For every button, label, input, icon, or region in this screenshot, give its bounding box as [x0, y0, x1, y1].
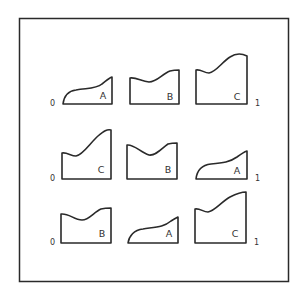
row1-right-label: 1: [255, 99, 260, 108]
row3-left-label: 0: [50, 238, 55, 247]
row1-left-label: 0: [50, 99, 55, 108]
label-row3-shape3: C: [232, 228, 239, 239]
row-3: [61, 192, 246, 243]
label-row3-shape1: B: [99, 228, 106, 239]
label-row2-shape1: C: [98, 164, 105, 175]
row-1: [63, 54, 247, 104]
outer-frame: [20, 19, 289, 282]
row-2: [62, 130, 247, 179]
row2-right-label: 1: [255, 174, 260, 183]
label-row1-shape1: A: [100, 90, 107, 101]
shape-c-row3: [195, 192, 246, 243]
label-row2-shape3: A: [234, 165, 241, 176]
diagram-figure: A B C C B A B A C 0 1 0 1 0 1: [0, 0, 306, 298]
row2-left-label: 0: [50, 174, 55, 183]
label-row3-shape2: A: [166, 228, 173, 239]
row3-right-label: 1: [254, 238, 259, 247]
label-row1-shape3: C: [234, 91, 241, 102]
label-row2-shape2: B: [165, 164, 172, 175]
label-row1-shape2: B: [167, 91, 174, 102]
